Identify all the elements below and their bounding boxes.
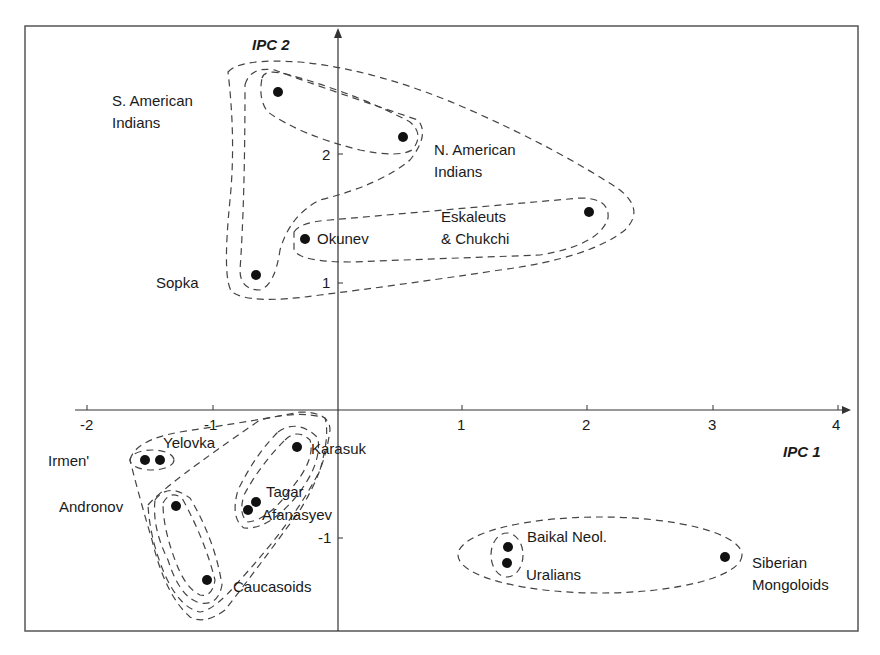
label-eskaleuts-1: Eskaleuts	[441, 208, 506, 225]
point-eskaleuts-chukchi[interactable]	[584, 207, 594, 217]
label-yelovka: Yelovka	[163, 434, 216, 451]
label-andronov: Andronov	[59, 498, 124, 515]
x-axis: -2 -1 1 2 3 4 IPC 1	[75, 405, 851, 460]
label-uralians: Uralians	[526, 566, 581, 583]
label-irmen: Irmen'	[48, 452, 89, 469]
label-tagar: Tagar	[266, 483, 304, 500]
x-tick-label: 1	[457, 416, 465, 433]
x-axis-title: IPC 1	[783, 443, 821, 460]
x-axis-arrow-icon	[842, 406, 851, 414]
point-siberian-mongoloids[interactable]	[720, 552, 730, 562]
point-okunev[interactable]	[300, 234, 310, 244]
data-points	[140, 87, 730, 585]
label-okunev: Okunev	[317, 230, 369, 247]
point-n-american-indians[interactable]	[398, 132, 408, 142]
x-tick-label: 4	[832, 416, 840, 433]
point-caucasoids[interactable]	[202, 575, 212, 585]
label-afanasyev: Afanasyev	[262, 506, 333, 523]
label-sopka: Sopka	[156, 274, 199, 291]
y-tick-label: -1	[318, 529, 331, 546]
y-axis: 2 1 -1 IPC 2	[252, 28, 343, 631]
label-baikal: Baikal Neol.	[527, 528, 607, 545]
x-tick-label: -2	[80, 416, 93, 433]
y-axis-title: IPC 2	[252, 36, 290, 53]
label-s-american-1: S. American	[112, 92, 193, 109]
label-n-american-2: Indians	[434, 163, 482, 180]
scatter-plot: -2 -1 1 2 3 4 IPC 1 2 1 -1 IPC 2	[0, 0, 880, 655]
point-irmen[interactable]	[140, 455, 150, 465]
x-tick-label: 2	[582, 416, 590, 433]
point-afanasyev[interactable]	[243, 505, 253, 515]
point-uralians[interactable]	[502, 558, 512, 568]
x-tick-label: -1	[204, 416, 217, 433]
label-n-american-1: N. American	[434, 141, 516, 158]
point-baikal-neol[interactable]	[503, 542, 513, 552]
label-karasuk: Karasuk	[311, 440, 367, 457]
point-labels: S. American Indians N. American Indians …	[48, 92, 829, 595]
y-tick-label: 1	[322, 274, 330, 291]
label-s-american-2: Indians	[112, 114, 160, 131]
point-tagar[interactable]	[251, 497, 261, 507]
label-caucasoids: Caucasoids	[233, 578, 311, 595]
label-eskaleuts-2: & Chukchi	[441, 230, 509, 247]
y-tick-label: 2	[322, 146, 330, 163]
point-yelovka[interactable]	[155, 455, 165, 465]
y-axis-arrow-icon	[334, 28, 342, 38]
point-s-american-indians[interactable]	[273, 87, 283, 97]
point-karasuk[interactable]	[292, 442, 302, 452]
point-sopka[interactable]	[251, 270, 261, 280]
point-andronov[interactable]	[171, 501, 181, 511]
x-tick-label: 3	[708, 416, 716, 433]
label-siberian-2: Mongoloids	[752, 576, 829, 593]
label-siberian-1: Siberian	[752, 554, 807, 571]
